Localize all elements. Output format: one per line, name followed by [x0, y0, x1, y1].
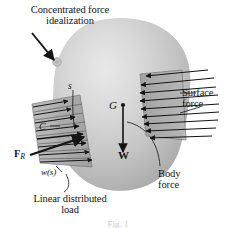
label-weight-vector: W	[118, 150, 129, 162]
center-of-gravity-dot	[121, 103, 125, 107]
label-surface-force: Surface force	[182, 87, 236, 110]
concentrated-force-pointer-arrow	[32, 33, 54, 60]
ws-tick-line	[56, 166, 62, 172]
label-s-coordinate: s	[68, 81, 72, 91]
label-resultant-force: FR	[14, 148, 25, 162]
label-body-force: Body force	[158, 168, 202, 191]
figure-caption: Fig. 1	[88, 219, 148, 228]
label-curve-c: C	[39, 122, 46, 133]
mechanics-figure: Concentrated force idealization Surface …	[0, 0, 236, 228]
label-center-of-gravity: G	[109, 100, 117, 112]
label-load-intensity: w(s)	[41, 168, 56, 178]
concentrated-force-point-inner	[55, 60, 59, 64]
label-resultant-force-subscript: R	[20, 152, 25, 161]
label-linear-distributed-load: Linear distributed load	[12, 193, 128, 216]
label-concentrated-force-idealization: Concentrated force idealization	[18, 4, 122, 27]
ws-leader-line	[64, 174, 69, 192]
